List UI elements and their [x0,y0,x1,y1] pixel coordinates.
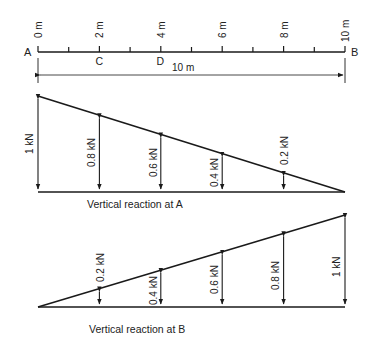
point-a-label: A [24,46,32,58]
reaction-a-diagram: 1 kN 0.8 kN 0.6 kN 0.4 kN 0.2 kN Vertica… [24,96,345,210]
tick-label-4m: 4 m [156,21,167,38]
tick-label-8m: 8 m [279,21,290,38]
influence-line-b [38,215,345,307]
ordinate-arrows-b [99,218,345,304]
ordinate-label-b-6m: 0.6 kN [209,265,220,294]
ordinate-label-b-10m: 1 kN [331,256,342,277]
ordinate-label-b-4m: 0.4 kN [148,276,159,305]
ordinate-label-a-8m: 0.2 kN [279,136,290,165]
point-d-label: D [157,55,165,67]
ordinate-label-b-2m: 0.2 kN [95,253,106,282]
point-b-label: B [351,46,358,58]
beam-ruler: A B 0 m 2 m 4 m 6 m 8 m 10 m C D 10 m [24,20,358,83]
tick-label-0m: 0 m [33,21,44,38]
ordinate-label-b-8m: 0.8 kN [270,261,281,290]
influence-line-diagram: A B 0 m 2 m 4 m 6 m 8 m 10 m C D 10 m 1 … [0,0,373,349]
point-c-label: C [96,55,104,67]
ordinate-label-a-6m: 0.4 kN [209,158,220,187]
caption-b: Vertical reaction at B [89,323,185,335]
tick-label-6m: 6 m [217,21,228,38]
span-label: 10 m [172,62,194,73]
reaction-b-diagram: 0.2 kN 0.4 kN 0.6 kN 0.8 kN 1 kN Vertica… [38,215,345,335]
influence-line-a [38,96,345,192]
ordinate-label-a-0m: 1 kN [24,133,35,154]
ruler-ticks [38,46,345,52]
tick-label-10m: 10 m [340,20,351,42]
ordinate-label-a-2m: 0.8 kN [86,138,97,167]
ordinate-label-a-4m: 0.6 kN [148,148,159,177]
span-dimension: 10 m [38,58,345,83]
caption-a: Vertical reaction at A [87,198,183,210]
tick-label-2m: 2 m [94,21,105,38]
ordinate-arrows-a [38,99,284,189]
